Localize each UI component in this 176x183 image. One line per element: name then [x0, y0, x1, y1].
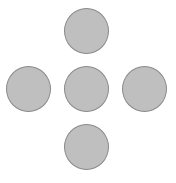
circle-left[interactable]	[6, 66, 51, 112]
circle-right[interactable]	[122, 66, 167, 112]
circle-bottom[interactable]	[64, 124, 109, 170]
circle-top[interactable]	[64, 8, 109, 54]
circle-center[interactable]	[64, 66, 109, 112]
